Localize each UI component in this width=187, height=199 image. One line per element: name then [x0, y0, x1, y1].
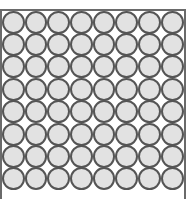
grid-cell[interactable] — [115, 11, 138, 33]
circle-slot — [47, 11, 70, 34]
grid-cell[interactable] — [2, 168, 25, 186]
grid-cell[interactable] — [25, 168, 48, 186]
circle-slot — [25, 145, 48, 168]
circle-slot — [138, 55, 161, 78]
grid-cell[interactable] — [47, 78, 70, 100]
circle-slot — [93, 123, 116, 146]
circle-slot — [25, 33, 48, 56]
grid-cell[interactable] — [115, 168, 138, 186]
grid-cell[interactable] — [70, 145, 93, 167]
grid-cell[interactable] — [138, 56, 161, 78]
grid-cell[interactable] — [70, 123, 93, 145]
grid-cell[interactable] — [47, 101, 70, 123]
grid-cell[interactable] — [2, 123, 25, 145]
grid-cell[interactable] — [138, 101, 161, 123]
circle-slot — [93, 145, 116, 168]
grid-cell[interactable] — [93, 33, 116, 55]
grid-cell[interactable] — [161, 33, 184, 55]
grid-cell[interactable] — [25, 56, 48, 78]
circle-slot — [138, 11, 161, 34]
circle-slot — [2, 123, 25, 146]
grid-cell[interactable] — [70, 168, 93, 186]
grid-cell[interactable] — [25, 33, 48, 55]
circle-slot — [70, 100, 93, 123]
circle-slot — [47, 100, 70, 123]
grid-cell[interactable] — [115, 56, 138, 78]
grid-cell[interactable] — [161, 101, 184, 123]
grid-cell[interactable] — [138, 123, 161, 145]
grid-cell[interactable] — [138, 33, 161, 55]
circle-slot — [2, 55, 25, 78]
grid-cell[interactable] — [93, 56, 116, 78]
grid-cell[interactable] — [93, 78, 116, 100]
grid-cell[interactable] — [2, 11, 25, 33]
circle-slot — [138, 33, 161, 56]
circle-slot — [161, 33, 184, 56]
grid-cell[interactable] — [115, 123, 138, 145]
grid-cell[interactable] — [93, 11, 116, 33]
grid-cell[interactable] — [70, 78, 93, 100]
grid-cell[interactable] — [93, 168, 116, 186]
grid-cell[interactable] — [115, 33, 138, 55]
grid-cell[interactable] — [93, 145, 116, 167]
grid-cell[interactable] — [47, 33, 70, 55]
circle-slot — [2, 11, 25, 34]
circle-slot — [161, 123, 184, 146]
grid-cell[interactable] — [70, 33, 93, 55]
circle-slot — [47, 123, 70, 146]
grid-cell[interactable] — [25, 78, 48, 100]
grid-cell[interactable] — [70, 11, 93, 33]
grid-cell[interactable] — [2, 33, 25, 55]
grid-cell[interactable] — [138, 78, 161, 100]
grid-cell[interactable] — [115, 101, 138, 123]
grid-cell[interactable] — [93, 101, 116, 123]
grid-cell[interactable] — [25, 11, 48, 33]
grid-cell[interactable] — [161, 123, 184, 145]
grid-cell[interactable] — [2, 56, 25, 78]
grid-cell[interactable] — [161, 11, 184, 33]
circle-slot — [93, 55, 116, 78]
grid-cell[interactable] — [161, 168, 184, 186]
circle-slot — [115, 100, 138, 123]
circle-slot — [93, 11, 116, 34]
circle-slot — [47, 33, 70, 56]
circle-slot — [2, 145, 25, 168]
grid-cell[interactable] — [70, 101, 93, 123]
grid-cell[interactable] — [25, 145, 48, 167]
circle-slot — [2, 33, 25, 56]
circle-slot — [115, 11, 138, 34]
circle-slot — [138, 123, 161, 146]
grid-cell[interactable] — [25, 123, 48, 145]
grid-cell[interactable] — [47, 168, 70, 186]
circle-slot — [25, 55, 48, 78]
circle-slot — [138, 167, 161, 186]
grid-cell[interactable] — [2, 145, 25, 167]
circle-slot — [115, 123, 138, 146]
circle-slot — [161, 100, 184, 123]
grid-cell[interactable] — [2, 101, 25, 123]
circle-slot — [25, 78, 48, 101]
circle-slot — [2, 167, 25, 186]
grid-cell[interactable] — [70, 56, 93, 78]
grid-cell[interactable] — [47, 56, 70, 78]
grid-cell[interactable] — [161, 56, 184, 78]
circle-slot — [70, 167, 93, 186]
grid-cell[interactable] — [25, 101, 48, 123]
grid-cell[interactable] — [2, 78, 25, 100]
circle-grid — [2, 11, 184, 186]
grid-cell[interactable] — [161, 145, 184, 167]
grid-cell[interactable] — [47, 11, 70, 33]
circle-slot — [70, 123, 93, 146]
circle-slot — [2, 78, 25, 101]
grid-cell[interactable] — [161, 78, 184, 100]
grid-cell[interactable] — [138, 168, 161, 186]
grid-cell[interactable] — [138, 11, 161, 33]
grid-cell[interactable] — [138, 145, 161, 167]
grid-cell[interactable] — [115, 145, 138, 167]
grid-cell[interactable] — [47, 145, 70, 167]
grid-cell[interactable] — [47, 123, 70, 145]
grid-cell[interactable] — [115, 78, 138, 100]
circle-slot — [47, 55, 70, 78]
circle-slot — [138, 145, 161, 168]
grid-cell[interactable] — [93, 123, 116, 145]
